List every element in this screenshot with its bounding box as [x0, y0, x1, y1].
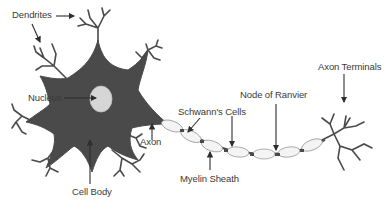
axon-terminals — [322, 114, 372, 170]
label-dendrites: Dendrites — [12, 9, 52, 20]
axon — [160, 118, 325, 159]
schwanns-cells-arrow-1 — [188, 118, 200, 132]
label-node-of-ranvier: Node of Ranvier — [240, 89, 307, 100]
myelin-sheath — [160, 118, 324, 159]
dendrites-arrow-2 — [32, 24, 40, 42]
label-nucleus: Nucleus — [28, 92, 62, 103]
nucleus — [90, 86, 112, 112]
label-myelin-sheath: Myelin Sheath — [180, 173, 239, 184]
label-axon-terminals: Axon Terminals — [318, 61, 381, 72]
label-axon: Axon — [140, 136, 161, 147]
label-cell-body: Cell Body — [72, 186, 112, 197]
label-schwanns-cells: Schwann's Cells — [178, 106, 246, 117]
